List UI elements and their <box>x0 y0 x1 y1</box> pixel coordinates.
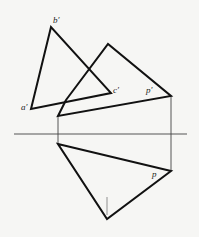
label-a-prime: a′ <box>21 103 27 112</box>
label-b-prime: b′ <box>53 16 59 25</box>
triangle-abc-front <box>31 27 111 109</box>
plane-top-projection <box>58 144 171 219</box>
label-p: p <box>152 170 157 179</box>
label-p-prime: p′ <box>146 86 152 95</box>
label-c-prime: c′ <box>113 86 119 95</box>
projection-diagram: b′ a′ c′ p′ p <box>0 0 199 237</box>
diagram-svg <box>0 0 199 237</box>
